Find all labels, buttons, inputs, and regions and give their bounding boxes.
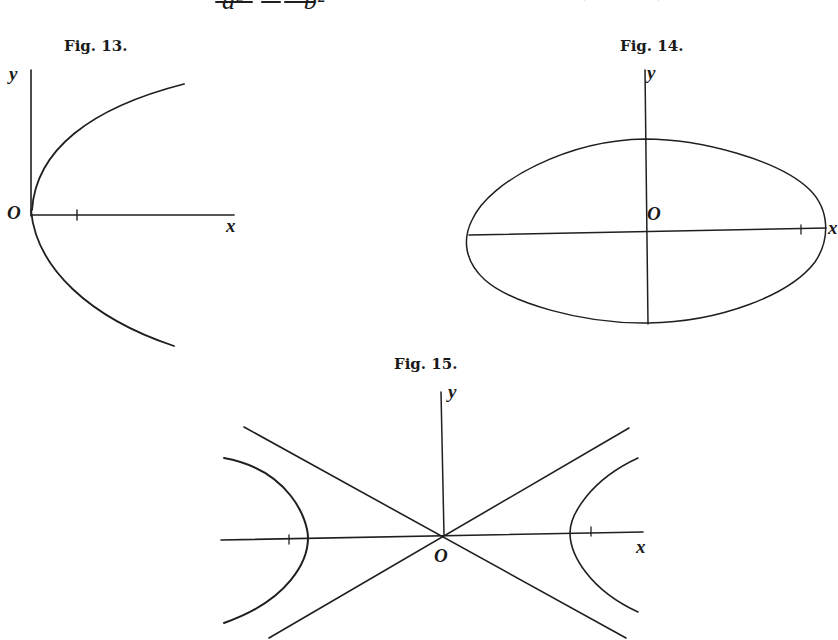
figure-15-hyperbola — [0, 0, 837, 640]
